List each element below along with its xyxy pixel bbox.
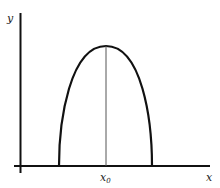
y-axis-label: y bbox=[6, 12, 14, 25]
peak-x-label-sub: 0 bbox=[106, 177, 111, 185]
peak-x-label: x0 bbox=[100, 171, 111, 185]
x-axis-label: x bbox=[206, 171, 213, 184]
diagram: y x x0 bbox=[0, 0, 220, 188]
